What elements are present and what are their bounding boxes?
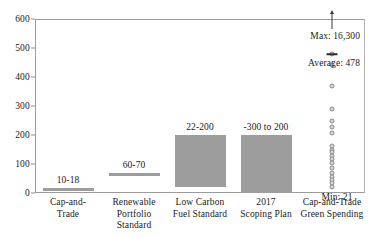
scatter-point	[330, 160, 335, 165]
range-bar-value-label: -300 to 200	[244, 122, 289, 132]
max-arrow-stem	[332, 14, 333, 29]
max-arrow-head	[330, 10, 334, 14]
range-bar-value-label: 10-18	[57, 175, 80, 185]
max-annotation: Max: 16,300	[310, 31, 360, 41]
range-bar	[43, 188, 94, 191]
scatter-point	[330, 184, 335, 189]
y-axis-tick-mark	[31, 164, 35, 165]
average-marker	[327, 54, 338, 56]
x-axis-labels: Cap-and-TradeRenewable PortfolioStandard…	[35, 195, 365, 237]
plot-area: 010020030040050060010-1860-7022-200-300 …	[35, 19, 365, 193]
range-bar	[175, 135, 226, 187]
y-axis-tick-mark	[31, 193, 35, 194]
x-axis-category-label-line: Cap-and-Trade	[292, 197, 372, 209]
scatter-point	[330, 107, 335, 112]
scatter-point	[330, 84, 335, 89]
range-bar	[241, 135, 292, 193]
scatter-point	[330, 119, 335, 124]
chart-root: 010020030040050060010-1860-7022-200-300 …	[0, 0, 380, 238]
y-axis-tick-mark	[31, 19, 35, 20]
y-axis-tick-mark	[31, 48, 35, 49]
range-bar	[109, 173, 160, 176]
average-annotation: Average: 478	[308, 58, 360, 68]
y-axis-tick-mark	[31, 106, 35, 107]
range-bar-value-label: 22-200	[186, 122, 214, 132]
y-axis-tick-mark	[31, 135, 35, 136]
x-axis-category-label-line: Green Spending	[292, 209, 372, 221]
x-axis-category-label: Cap-and-TradeGreen Spending	[292, 197, 372, 220]
scatter-point	[330, 124, 335, 129]
y-axis-tick-mark	[31, 77, 35, 78]
range-bar-value-label: 60-70	[123, 160, 146, 170]
x-axis-category-label-line: Standard	[94, 220, 174, 232]
scatter-point	[330, 130, 335, 135]
